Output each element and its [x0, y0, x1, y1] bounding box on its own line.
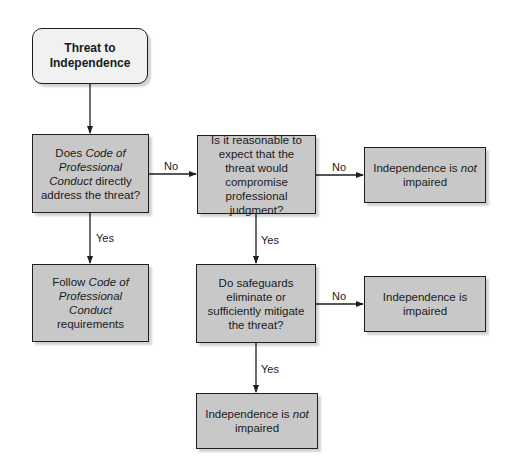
not-impaired-1-post: impaired — [403, 176, 447, 188]
decision-safeguards-mitigate: Do safeguards eliminate or sufficiently … — [196, 264, 316, 343]
decision-code-addresses-threat: Does Code of Professional Conduct direct… — [32, 134, 149, 213]
q1-text-pre: Does — [55, 147, 85, 159]
start-node: Threat to Independence — [32, 28, 148, 84]
label-q3-yes: Yes — [261, 363, 279, 375]
label-q1-yes: Yes — [96, 232, 114, 244]
start-node-line1: Threat to — [64, 41, 115, 55]
not-impaired-2-italic: not — [293, 408, 309, 420]
label-q3-no: No — [332, 290, 346, 302]
not-impaired-1-italic: not — [461, 162, 477, 174]
q2-text: Is it reasonable to expect that the thre… — [203, 133, 310, 217]
impaired-text: Independence is impaired — [377, 290, 473, 318]
q3-text: Do safeguards eliminate or sufficiently … — [202, 276, 310, 332]
label-q2-no: No — [332, 161, 346, 173]
label-q1-no: No — [164, 160, 178, 172]
outcome-not-impaired-1: Independence is not impaired — [364, 147, 486, 203]
not-impaired-1-pre: Independence is — [373, 162, 461, 174]
outcome-impaired: Independence is impaired — [364, 276, 486, 332]
label-q2-yes: Yes — [261, 234, 279, 246]
not-impaired-2-post: impaired — [235, 422, 279, 434]
not-impaired-2-pre: Independence is — [205, 408, 293, 420]
outcome-not-impaired-2: Independence is not impaired — [196, 393, 318, 449]
follow-text-post: requirements — [57, 318, 124, 330]
follow-text-pre: Follow — [52, 276, 88, 288]
outcome-follow-code: Follow Code of Professional Conduct requ… — [32, 264, 149, 342]
start-node-line2: Independence — [50, 56, 131, 70]
decision-compromise-judgment: Is it reasonable to expect that the thre… — [197, 135, 316, 214]
flowchart: Threat to Independence Does Code of Prof… — [0, 0, 513, 476]
